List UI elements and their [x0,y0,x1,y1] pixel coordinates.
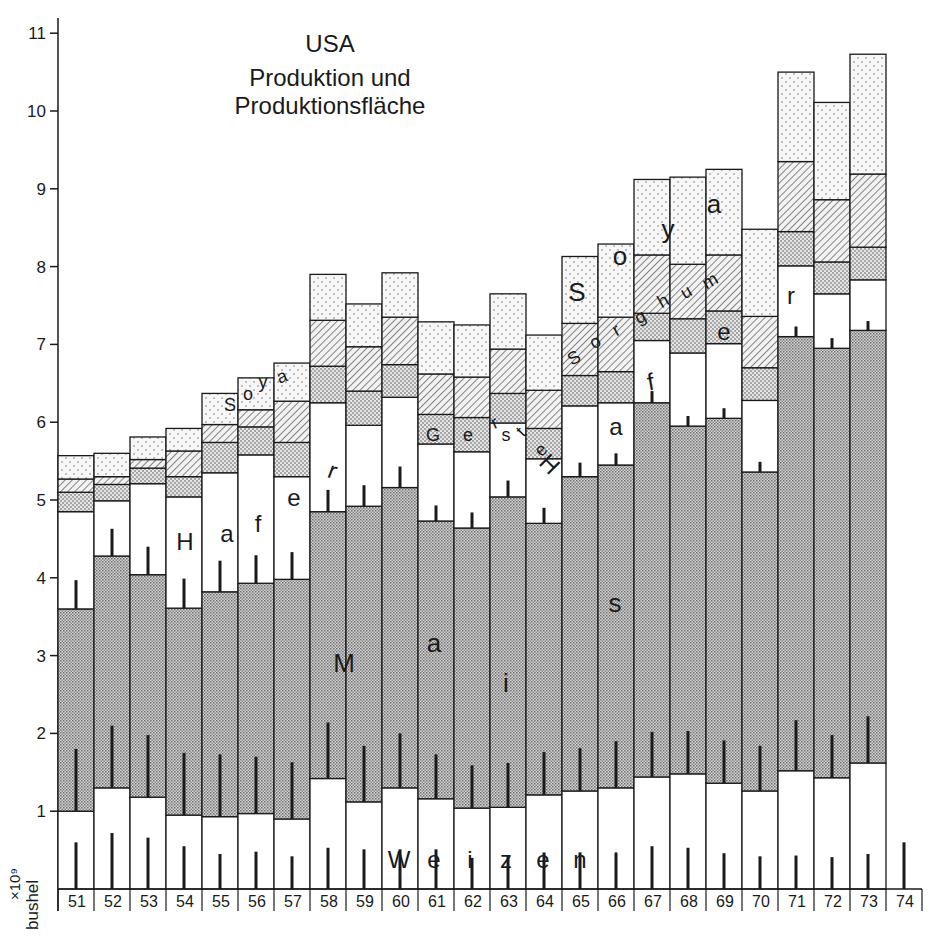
bar-60 [382,273,418,889]
label-gerste: G [426,425,440,445]
x-axis: 5152535455565758596061626364656667686970… [58,889,922,911]
x-tick-label: 69 [716,893,734,910]
x-tick-label: 73 [860,893,878,910]
bar-segment-soya [850,54,886,174]
x-tick-label: 57 [284,893,302,910]
y-tick-label: 10 [27,102,46,121]
bar-segment-sorghum [58,479,94,492]
bar-segment-soya [310,274,346,320]
label-hafer-right: e [717,318,730,345]
x-tick-label: 59 [356,893,374,910]
bar-segment-sorghum [238,410,274,427]
bar-segment-gerste [850,247,886,280]
bar-segment-gerste [202,442,238,472]
label-weizen: z [500,846,512,873]
bar-segment-soya [418,322,454,374]
x-tick-label: 64 [536,893,554,910]
bar-segment-sorghum [490,349,526,393]
bar-segment-hafer [778,266,814,337]
bar-segment-mais [706,418,742,783]
y-tick-label: 9 [37,180,46,199]
bar-segment-gerste [274,442,310,476]
bar-51 [58,456,94,889]
label-soya: S [224,395,236,415]
y-tick-label: 8 [37,258,46,277]
bar-segment-soya [490,294,526,349]
bar-segment-sorghum [166,451,202,477]
label-hafer: a [220,520,234,547]
y-tick-label: 2 [37,724,46,743]
x-tick-label: 63 [500,893,518,910]
bar-segment-mais [670,426,706,774]
bar-segment-soya [526,335,562,390]
label-mais: i [503,668,509,698]
bar-segment-gerste [562,376,598,406]
label-hafer: f [255,510,262,537]
x-tick-label: 53 [140,893,158,910]
bar-segment-soya [778,72,814,161]
bar-segment-gerste [598,372,634,403]
label-soya-right: S [568,277,585,307]
title-country: USA [180,30,480,58]
y-multiplier-label: ×10⁹ [6,868,23,900]
x-tick-label: 56 [248,893,266,910]
y-tick-label: 4 [37,569,46,588]
label-gerste: s [502,425,511,445]
bar-segment-gerste [238,427,274,455]
bar-66 [598,244,634,889]
label-soya-right: y [662,214,675,244]
chart-title: USA Produktion und Produktionsfläche [180,30,480,120]
label-soya: y [259,372,268,392]
label-weizen: W [388,846,411,873]
bar-segment-gerste [346,391,382,425]
bar-segment-sorghum [310,320,346,366]
bar-segment-gerste [310,366,346,403]
bar-segment-mais [778,337,814,771]
bar-segment-hafer [706,344,742,419]
bar-segment-sorghum [418,374,454,414]
bar-segment-sorghum [526,390,562,428]
bar-segment-soya [382,273,418,317]
bar-53 [130,437,166,889]
x-tick-label: 74 [896,893,914,910]
x-tick-label: 65 [572,893,590,910]
bar-segment-mais [562,477,598,791]
bar-segment-sorghum [742,316,778,367]
label-soya-right: o [613,241,627,271]
bar-segment-soya [346,304,382,347]
bar-58 [310,274,346,889]
label-soya-right: a [707,189,722,219]
bar-segment-soya [670,177,706,264]
bar-segment-gerste [166,477,202,497]
bar-segment-mais [598,465,634,788]
label-weizen: i [467,846,472,873]
title-line-2: Produktion und [180,64,480,92]
bar-segment-mais [850,330,886,763]
bar-segment-sorghum [94,477,130,485]
x-tick-label: 62 [464,893,482,910]
bar-segment-sorghum [274,401,310,442]
bar-segment-gerste [670,319,706,353]
bar-segment-soya [58,456,94,479]
label-weizen: n [573,846,586,873]
label-gerste: e [463,425,473,445]
bar-segment-sorghum [814,200,850,262]
label-soya: o [243,384,253,404]
bar-segment-hafer [742,400,778,472]
x-tick-label: 51 [68,893,86,910]
bars-group [58,54,886,889]
x-tick-label: 68 [680,893,698,910]
y-tick-label: 3 [37,647,46,666]
bar-segment-hafer [670,353,706,426]
bar-segment-gerste [58,492,94,511]
x-tick-label: 61 [428,893,446,910]
x-tick-label: 55 [212,893,230,910]
bar-segment-sorghum [130,460,166,469]
x-tick-label: 67 [644,893,662,910]
bar-segment-mais [634,403,670,777]
bar-segment-mais [742,472,778,791]
bar-segment-sorghum [382,317,418,364]
bar-segment-gerste [130,468,166,484]
label-weizen: e [427,846,440,873]
bar-68 [670,177,706,889]
